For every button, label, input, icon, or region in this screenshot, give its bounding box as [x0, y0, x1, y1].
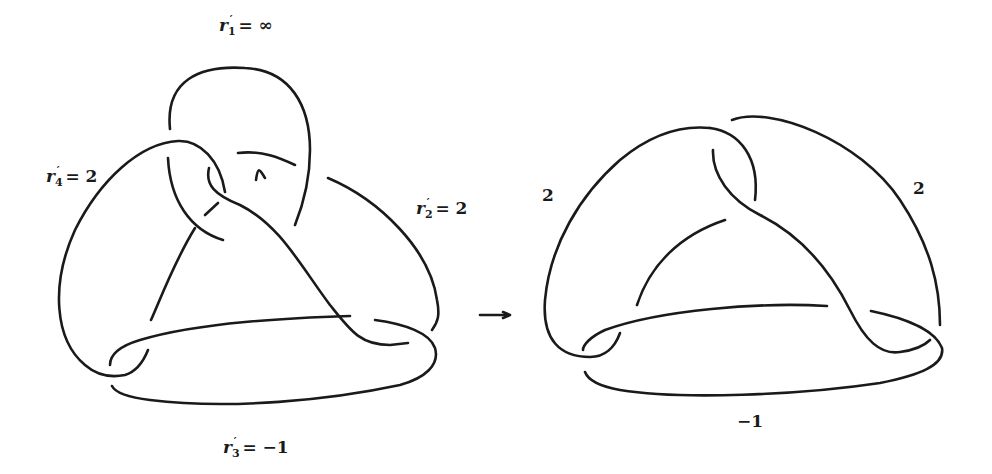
left-knot-diagram [59, 68, 438, 404]
right-short-strand [112, 320, 436, 404]
top-loop-strand [170, 68, 310, 225]
right-knot-diagram [545, 117, 943, 396]
inner-arc-strand [238, 152, 295, 165]
label-right-left: 2 [542, 187, 554, 204]
label-right-right: 2 [913, 180, 925, 197]
top-right-strand [256, 170, 265, 180]
right-inner-arc-strand [637, 220, 725, 305]
label-right-bottom: −1 [737, 413, 763, 430]
right-outer-arc-strand [732, 117, 940, 325]
right-diagonal-strand [713, 150, 930, 352]
center-left-strand [151, 228, 195, 320]
label-r4: r4′ = 2 [46, 165, 97, 188]
right-middle-horizontal-strand [583, 305, 827, 350]
label-r2: r2′ = 2 [416, 197, 467, 220]
middle-horizontal-strand [110, 316, 350, 365]
knot-figure [0, 0, 992, 474]
right-top-curl-strand [710, 128, 756, 200]
right-bottom-loop-strand [585, 311, 942, 395]
crossing-dash-1 [205, 203, 218, 215]
label-r1: r1′ = ∞ [219, 14, 273, 37]
label-r3: r3′ = −1 [223, 436, 289, 459]
